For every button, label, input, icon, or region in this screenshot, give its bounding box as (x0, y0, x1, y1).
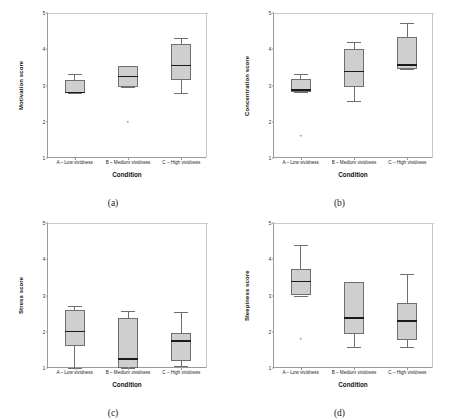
plot-axes: 12345A – Low vividnessB – Medium vividne… (273, 13, 433, 158)
whisker-cap-upper (174, 312, 188, 313)
plot-frame-right (206, 13, 207, 158)
whisker-cap-upper (174, 38, 188, 39)
y-tick-mark (46, 331, 49, 332)
whisker-cap-upper (294, 74, 308, 75)
whisker-cap-lower (294, 92, 308, 93)
x-tick-label: A – Low vividness (56, 157, 93, 165)
y-tick-mark (46, 85, 49, 86)
x-tick-label: A – Low vividness (56, 367, 93, 375)
panel-caption-c: (c) (0, 408, 226, 418)
y-tick-mark (46, 295, 49, 296)
median-line (397, 64, 417, 65)
x-tick-label: B – Medium vividness (332, 367, 377, 375)
plot-area: 12345A – Low vividnessB – Medium vividne… (47, 223, 207, 368)
whisker-cap-upper (294, 245, 308, 246)
outlier-point (127, 121, 129, 123)
median-line (344, 71, 364, 72)
y-tick-mark (46, 49, 49, 50)
whisker-cap-lower (347, 347, 361, 348)
whisker-cap-upper (347, 42, 361, 43)
whisker-cap-upper (400, 274, 414, 275)
panel-cell-d: 12345A – Low vividnessB – Medium vividne… (226, 210, 453, 420)
box (171, 44, 191, 80)
y-axis-label: Motivation score (18, 13, 24, 158)
y-tick-mark (46, 259, 49, 260)
y-tick-mark (272, 223, 275, 224)
plot-frame-right (432, 223, 433, 368)
box (65, 310, 85, 346)
panel-b: 12345A – Low vividnessB – Medium vividne… (226, 0, 453, 210)
whisker-cap-lower (294, 296, 308, 297)
plot-frame-right (432, 13, 433, 158)
panel-c: 12345A – Low vividnessB – Medium vividne… (0, 210, 226, 420)
y-tick-mark (272, 331, 275, 332)
box (118, 318, 138, 368)
y-tick-mark (272, 259, 275, 260)
x-axis-label: Condition (47, 171, 207, 178)
panel-cell-c: 12345A – Low vividnessB – Medium vividne… (0, 210, 226, 420)
box (344, 282, 364, 334)
y-tick-mark (46, 158, 49, 159)
x-tick-label: B – Medium vividness (106, 157, 151, 165)
panel-caption-d: (d) (226, 408, 453, 418)
median-line (344, 317, 364, 318)
whisker-cap-lower (347, 101, 361, 102)
x-tick-label: C – High vividness (162, 157, 200, 165)
median-line (171, 340, 191, 341)
plot-frame-top (48, 13, 208, 14)
panel-cell-b: 12345A – Low vividnessB – Medium vividne… (226, 0, 453, 210)
x-axis-label: Condition (273, 171, 433, 178)
y-tick-mark (46, 223, 49, 224)
y-tick-mark (272, 368, 275, 369)
panel-caption-b: (b) (226, 198, 453, 208)
median-line (397, 320, 417, 321)
y-tick-mark (46, 368, 49, 369)
whisker-cap-lower (121, 87, 135, 88)
median-line (65, 92, 85, 93)
y-axis-label: Sleepiness score (244, 223, 250, 368)
x-tick-label: C – High vividness (388, 367, 426, 375)
y-tick-mark (272, 295, 275, 296)
outlier-point (299, 338, 301, 340)
x-axis-label: Condition (273, 381, 433, 388)
plot-axes: 12345A – Low vividnessB – Medium vividne… (47, 223, 207, 368)
y-tick-mark (46, 121, 49, 122)
plot-area: 12345A – Low vividnessB – Medium vividne… (47, 13, 207, 158)
x-tick-label: B – Medium vividness (332, 157, 377, 165)
boxplot-figure: 12345A – Low vividnessB – Medium vividne… (0, 0, 453, 420)
panel-cell-a: 12345A – Low vividnessB – Medium vividne… (0, 0, 226, 210)
panel-d: 12345A – Low vividnessB – Medium vividne… (226, 210, 453, 420)
box (291, 269, 311, 295)
plot-frame-top (274, 13, 434, 14)
x-tick-label: C – High vividness (162, 367, 200, 375)
y-tick-mark (272, 13, 275, 14)
whisker-cap-lower (400, 69, 414, 70)
median-line (171, 65, 191, 66)
whisker-cap-lower (400, 347, 414, 348)
x-tick-label: B – Medium vividness (106, 367, 151, 375)
x-tick-label: A – Low vividness (282, 157, 319, 165)
whisker-cap-upper (68, 74, 82, 75)
plot-area: 12345A – Low vividnessB – Medium vividne… (273, 223, 433, 368)
box (344, 49, 364, 86)
plot-frame-right (206, 223, 207, 368)
whisker-cap-upper (68, 306, 82, 307)
x-tick-label: A – Low vividness (282, 367, 319, 375)
y-tick-mark (272, 121, 275, 122)
y-tick-mark (46, 13, 49, 14)
plot-area: 12345A – Low vividnessB – Medium vividne… (273, 13, 433, 158)
x-axis-label: Condition (47, 381, 207, 388)
plot-frame-top (274, 223, 434, 224)
box (171, 333, 191, 362)
plot-axes: 12345A – Low vividnessB – Medium vividne… (273, 223, 433, 368)
median-line (291, 89, 311, 90)
y-tick-mark (272, 158, 275, 159)
panel-caption-a: (a) (0, 198, 226, 208)
panel-grid: 12345A – Low vividnessB – Medium vividne… (0, 0, 453, 420)
whisker-cap-upper (121, 311, 135, 312)
median-line (118, 76, 138, 77)
y-axis-label: Stress score (18, 223, 24, 368)
whisker-cap-upper (400, 23, 414, 24)
plot-frame-top (48, 223, 208, 224)
y-tick-mark (272, 85, 275, 86)
